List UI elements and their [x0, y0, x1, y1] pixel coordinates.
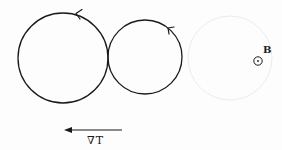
- b-field-label: B: [263, 44, 271, 55]
- small-orbit-circle: [108, 20, 182, 94]
- large-orbit-arrow-icon: [76, 10, 82, 20]
- diagram-canvas: B ∇T: [0, 0, 282, 150]
- gradient-arrowhead-icon: [64, 127, 72, 133]
- large-orbit-circle: [18, 13, 108, 103]
- b-field-dot: [257, 60, 259, 62]
- gradient-label: ∇T: [87, 134, 104, 147]
- ghost-circle: [188, 16, 272, 100]
- diagram-svg: [0, 0, 282, 150]
